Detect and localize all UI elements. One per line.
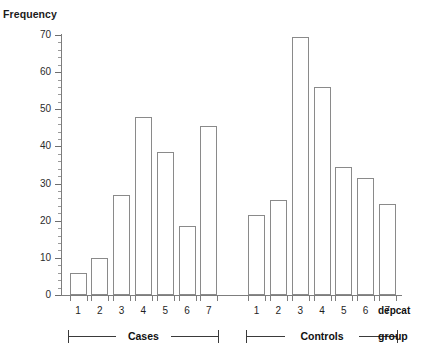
y-axis-major-tick (55, 146, 61, 147)
y-axis-minor-tick (58, 265, 61, 266)
y-axis-minor-tick (58, 65, 61, 66)
y-axis-tick-label: 20 (25, 216, 51, 226)
y-axis-minor-tick (58, 280, 61, 281)
x-axis-tick (335, 296, 336, 301)
y-axis-minor-tick (58, 206, 61, 207)
group-bracket: Controls (246, 327, 398, 345)
depcat-label: 6 (177, 305, 197, 316)
bracket-line-left (246, 336, 285, 337)
y-axis-minor-tick (58, 169, 61, 170)
y-axis-minor-tick (58, 250, 61, 251)
y-axis-minor-tick (58, 94, 61, 95)
y-axis-minor-tick (58, 42, 61, 43)
x-axis-tick (200, 296, 201, 301)
y-axis-minor-tick (58, 132, 61, 133)
bar (248, 215, 265, 295)
y-axis-minor-tick (58, 50, 61, 51)
bar (179, 226, 196, 295)
x-axis-tick (331, 296, 332, 301)
bar (157, 152, 174, 295)
y-axis-minor-tick (58, 87, 61, 88)
bar (314, 87, 331, 295)
depcat-label: 2 (268, 305, 288, 316)
y-axis-minor-tick (58, 139, 61, 140)
y-axis-major-tick (55, 72, 61, 73)
bar (292, 37, 309, 295)
bar (357, 178, 374, 295)
x-axis-tick (174, 296, 175, 301)
x-axis-tick (357, 296, 358, 301)
y-axis-minor-tick (58, 243, 61, 244)
y-axis-minor-tick (58, 228, 61, 229)
depcat-label: 4 (312, 305, 332, 316)
y-axis-major-tick (55, 221, 61, 222)
depcat-label: 2 (90, 305, 110, 316)
y-axis-minor-tick (58, 213, 61, 214)
y-axis-minor-tick (58, 80, 61, 81)
bar (270, 200, 287, 295)
x-axis-tick (70, 296, 71, 301)
x-axis-tick (374, 296, 375, 301)
bracket-line-left (68, 336, 116, 337)
depcat-label: 1 (68, 305, 88, 316)
y-axis-tick-label: 70 (25, 30, 51, 40)
depcat-label: 3 (112, 305, 132, 316)
depcat-label: 3 (290, 305, 310, 316)
y-axis-minor-tick (58, 102, 61, 103)
y-axis-tick-label: 0 (25, 290, 51, 300)
y-axis-major-tick (55, 184, 61, 185)
y-axis-tick-label: 50 (25, 104, 51, 114)
depcat-axis-name: depcat (378, 305, 410, 316)
x-axis-tick (287, 296, 288, 301)
bar (91, 258, 108, 295)
y-axis-minor-tick (58, 124, 61, 125)
depcat-label: 7 (199, 305, 219, 316)
x-axis-tick (196, 296, 197, 301)
y-axis-minor-tick (58, 57, 61, 58)
y-axis-minor-tick (58, 198, 61, 199)
y-axis-minor-tick (58, 191, 61, 192)
y-axis-minor-tick (58, 154, 61, 155)
depcat-label: 4 (133, 305, 153, 316)
depcat-label: 1 (247, 305, 267, 316)
bar (70, 273, 87, 295)
x-axis-tick (379, 296, 380, 301)
x-axis-tick (152, 296, 153, 301)
bracket-line-right (171, 336, 219, 337)
depcat-label: 6 (356, 305, 376, 316)
x-axis-tick (248, 296, 249, 301)
y-axis-major-tick (55, 258, 61, 259)
y-axis-title: Frequency (3, 8, 57, 20)
x-axis-tick (314, 296, 315, 301)
frequency-bar-chart: Frequency 010203040506070 12345671234567… (0, 0, 429, 357)
x-axis-tick (130, 296, 131, 301)
x-axis-tick (108, 296, 109, 301)
x-axis-tick (309, 296, 310, 301)
bracket-cap-right (218, 330, 219, 343)
y-axis-minor-tick (58, 288, 61, 289)
bar (335, 167, 352, 295)
bar (113, 195, 130, 295)
depcat-label: 5 (155, 305, 175, 316)
x-axis-tick (352, 296, 353, 301)
x-axis-tick (91, 296, 92, 301)
bar (135, 117, 152, 295)
y-axis-minor-tick (58, 117, 61, 118)
group-bracket-label: Cases (116, 329, 171, 343)
x-axis-tick (135, 296, 136, 301)
y-axis-tick-label: 10 (25, 253, 51, 263)
depcat-label: 5 (334, 305, 354, 316)
y-axis-tick-label: 60 (25, 67, 51, 77)
x-axis-tick (113, 296, 114, 301)
plot-area (62, 30, 400, 295)
y-axis-minor-tick (58, 176, 61, 177)
x-axis-tick (396, 296, 397, 301)
y-axis-tick-label: 40 (25, 141, 51, 151)
bar (379, 204, 396, 295)
y-axis-major-tick (55, 109, 61, 110)
group-bracket-label: Controls (285, 329, 360, 343)
x-axis-tick (87, 296, 88, 301)
x-axis-tick (157, 296, 158, 301)
x-axis-tick (179, 296, 180, 301)
y-axis-minor-tick (58, 236, 61, 237)
